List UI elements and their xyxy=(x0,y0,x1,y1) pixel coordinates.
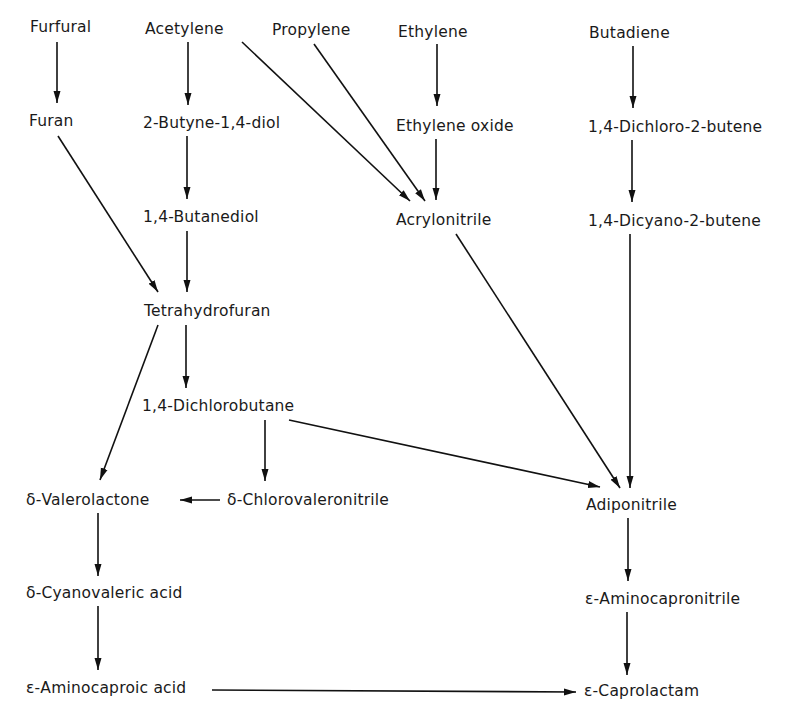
node-ethylene: Ethylene xyxy=(398,23,468,41)
node-ethylene-oxide: Ethylene oxide xyxy=(396,117,514,135)
node-butynediol: 2-Butyne-1,4-diol xyxy=(143,114,280,132)
node-caprolactam: ε-Caprolactam xyxy=(584,682,699,700)
node-butadiene: Butadiene xyxy=(589,24,670,42)
edge-acrylonitrile-adiponitrile xyxy=(456,234,620,488)
node-cyanovaleric-acid: δ-Cyanovaleric acid xyxy=(26,584,182,602)
node-aminocapronitrile: ε-Aminocapronitrile xyxy=(585,590,740,608)
node-furan: Furan xyxy=(29,112,74,130)
node-acetylene: Acetylene xyxy=(145,20,224,38)
node-dicyanobutene: 1,4-Dicyano-2-butene xyxy=(588,212,761,230)
node-acrylonitrile: Acrylonitrile xyxy=(396,211,492,229)
caprolactam-synthesis-diagram: Furfural Acetylene Propylene Ethylene Bu… xyxy=(0,0,808,724)
node-furfural: Furfural xyxy=(30,18,91,36)
node-aminocaproic-acid: ε-Aminocaproic acid xyxy=(26,679,186,697)
edge-dichlorobutane-adiponitrile xyxy=(289,420,600,487)
node-chlorovaleronitrile: δ-Chlorovaleronitrile xyxy=(227,491,389,509)
node-valerolactone: δ-Valerolactone xyxy=(26,491,150,509)
node-butanediol: 1,4-Butanediol xyxy=(143,208,259,226)
node-dichlorobutene: 1,4-Dichloro-2-butene xyxy=(588,118,762,136)
node-tetrahydrofuran: Tetrahydrofuran xyxy=(144,302,271,320)
edge-aminocaproic-caprolactam xyxy=(212,690,576,692)
node-dichlorobutane: 1,4-Dichlorobutane xyxy=(142,397,294,415)
node-propylene: Propylene xyxy=(272,21,351,39)
node-adiponitrile: Adiponitrile xyxy=(586,496,677,514)
edge-layer xyxy=(0,0,808,724)
